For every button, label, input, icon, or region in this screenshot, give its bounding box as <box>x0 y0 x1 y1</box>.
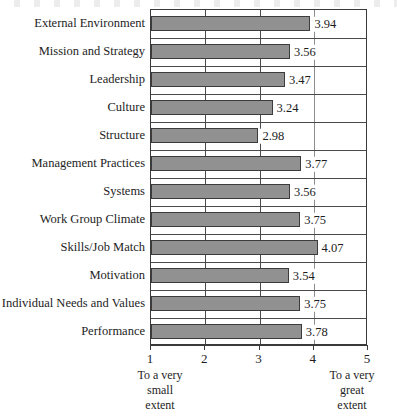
bar <box>151 268 289 283</box>
anchor-left-line-3: extent <box>114 398 206 413</box>
bar <box>151 100 273 115</box>
bar-value-label: 3.56 <box>291 185 318 200</box>
bar-value-label: 3.75 <box>301 297 328 312</box>
category-label: Leadership <box>0 73 145 86</box>
bar <box>151 44 290 59</box>
bar-value-label: 3.56 <box>291 45 318 60</box>
bar-row: 3.56 <box>151 178 366 206</box>
x-tick-label-5: 5 <box>364 352 371 365</box>
bar <box>151 324 302 339</box>
x-tick-label-3: 3 <box>255 352 262 365</box>
bar-row: 3.24 <box>151 94 366 122</box>
bar <box>151 296 300 311</box>
x-axis-anchor-right: To a very great extent <box>306 368 397 413</box>
bar-value-label: 3.24 <box>274 101 301 116</box>
bar-value-label: 3.77 <box>302 157 329 172</box>
bar-value-label: 4.07 <box>319 241 346 256</box>
bar <box>151 156 301 171</box>
x-tick-2 <box>204 345 205 350</box>
x-tick-label-2: 2 <box>201 352 208 365</box>
bar-value-label: 3.94 <box>311 17 338 32</box>
bar-row: 3.75 <box>151 206 366 234</box>
x-tick-label-4: 4 <box>310 352 317 365</box>
category-label: Skills/Job Match <box>0 241 145 254</box>
bar <box>151 16 310 31</box>
category-label: External Environment <box>0 17 145 30</box>
bar-row: 3.54 <box>151 262 366 290</box>
plot-area: 3.943.563.473.242.983.773.563.754.073.54… <box>150 9 367 345</box>
category-label: Mission and Strategy <box>0 45 145 58</box>
x-tick-3 <box>259 345 260 350</box>
anchor-right-line-1: To a very <box>306 368 397 383</box>
x-tick-label-1: 1 <box>147 352 154 365</box>
category-label: Culture <box>0 101 145 114</box>
bar-row: 3.94 <box>151 10 366 38</box>
bar-value-label: 3.75 <box>301 213 328 228</box>
anchor-right-line-2: great <box>306 383 397 398</box>
bar <box>151 212 300 227</box>
category-label: Structure <box>0 129 145 142</box>
bar-value-label: 2.98 <box>259 129 286 144</box>
category-label: Management Practices <box>0 157 145 170</box>
scan-noise-artifact <box>0 0 397 7</box>
bar <box>151 240 318 255</box>
bar-row: 3.47 <box>151 66 366 94</box>
anchor-right-line-3: extent <box>306 398 397 413</box>
x-axis-anchor-left: To a very small extent <box>114 368 206 413</box>
category-label: Work Group Climate <box>0 213 145 226</box>
burke-litwin-bar-chart: 3.943.563.473.242.983.773.563.754.073.54… <box>0 0 397 417</box>
bar-row: 2.98 <box>151 122 366 150</box>
bar-row: 3.75 <box>151 290 366 318</box>
category-label: Motivation <box>0 269 145 282</box>
category-label: Systems <box>0 185 145 198</box>
x-tick-4 <box>313 345 314 350</box>
bar <box>151 184 290 199</box>
bar-value-label: 3.47 <box>286 73 313 88</box>
category-label: Performance <box>0 325 145 338</box>
bar <box>151 72 285 87</box>
bar-value-label: 3.54 <box>290 269 317 284</box>
category-label: Individual Needs and Values <box>0 297 145 310</box>
anchor-left-line-2: small <box>114 383 206 398</box>
bar <box>151 128 258 143</box>
x-tick-5 <box>367 345 368 350</box>
x-tick-1 <box>150 345 151 350</box>
bar-value-label: 3.78 <box>303 325 330 340</box>
bar-row: 3.77 <box>151 150 366 178</box>
bar-row: 3.78 <box>151 318 366 346</box>
bar-row: 4.07 <box>151 234 366 262</box>
anchor-left-line-1: To a very <box>114 368 206 383</box>
bar-row: 3.56 <box>151 38 366 66</box>
